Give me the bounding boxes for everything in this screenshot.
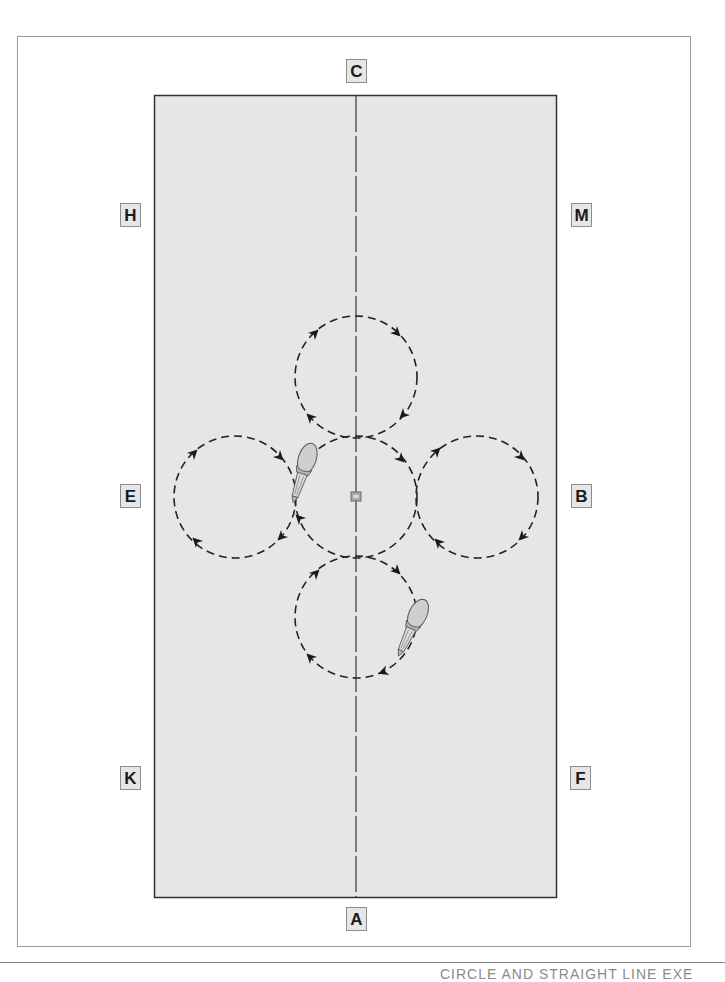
marker-h: H	[120, 203, 141, 227]
marker-f: F	[570, 766, 591, 790]
footer-divider	[0, 962, 725, 963]
marker-k: K	[120, 766, 141, 790]
marker-b: B	[571, 484, 592, 508]
marker-c: C	[346, 59, 367, 83]
marker-a: A	[346, 907, 367, 931]
marker-m: M	[571, 203, 592, 227]
footer-caption: CIRCLE AND STRAIGHT LINE EXE	[440, 966, 693, 982]
marker-e: E	[120, 484, 141, 508]
